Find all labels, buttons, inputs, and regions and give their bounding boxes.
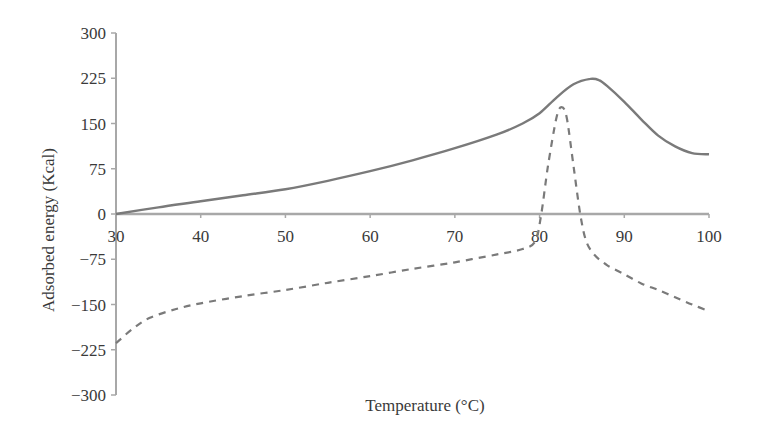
x-axis-title: Temperature (°C) <box>365 396 484 415</box>
x-axis: 30405060708090100 <box>108 214 722 246</box>
y-tick-label: 75 <box>89 160 106 179</box>
x-tick-label: 30 <box>108 227 125 246</box>
x-tick-label: 50 <box>277 227 294 246</box>
y-tick-label: 225 <box>81 69 107 88</box>
y-tick-label: −75 <box>79 250 106 269</box>
y-axis-title: Adsorbed energy (Kcal) <box>39 148 58 312</box>
line-chart: 300225150750−75−150−225−300 304050607080… <box>0 0 758 436</box>
x-tick-label: 60 <box>362 227 379 246</box>
plot-area <box>116 79 709 343</box>
y-tick-label: −150 <box>71 296 106 315</box>
y-tick-label: −225 <box>71 341 106 360</box>
y-tick-label: −300 <box>71 386 106 405</box>
y-tick-label: 0 <box>98 205 107 224</box>
x-tick-label: 70 <box>446 227 463 246</box>
y-tick-label: 300 <box>81 24 107 43</box>
y-axis: 300225150750−75−150−225−300 <box>71 24 116 405</box>
y-tick-label: 150 <box>81 115 107 134</box>
x-tick-label: 100 <box>696 227 722 246</box>
series-solid-line <box>116 79 709 214</box>
x-tick-label: 90 <box>616 227 633 246</box>
x-tick-label: 40 <box>192 227 209 246</box>
series-dashed-line <box>116 107 709 343</box>
